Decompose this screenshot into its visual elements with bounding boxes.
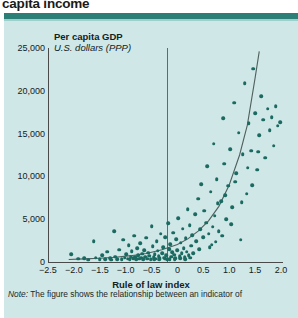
- scatter-point: [235, 171, 239, 175]
- scatter-point: [203, 209, 207, 213]
- scatter-point: [196, 197, 200, 201]
- scatter-point: [151, 244, 155, 248]
- fit-curve: [48, 48, 281, 262]
- scatter-point: [256, 150, 260, 154]
- scatter-point: [175, 238, 179, 242]
- scatter-point: [92, 239, 96, 243]
- x-tick-label: 2.0: [275, 265, 288, 275]
- scatter-point: [249, 149, 253, 153]
- scatter-point: [193, 212, 197, 216]
- scatter-point: [172, 231, 176, 235]
- y-tick-label: 15,000: [17, 129, 45, 139]
- scatter-point: [116, 257, 120, 261]
- scatter-point: [130, 250, 134, 254]
- scatter-point: [221, 116, 225, 120]
- scatter-point: [127, 244, 131, 248]
- chart-page: capita income Per capita GDP U.S. dollar…: [0, 0, 298, 318]
- y-axis-ticks: 05,00010,00015,00020,00025,000: [4, 48, 45, 262]
- scatter-point: [209, 190, 213, 194]
- x-tick-label: −1.0: [117, 265, 135, 275]
- scatter-point: [161, 246, 165, 250]
- x-axis-line: [48, 262, 283, 263]
- scatter-point: [152, 258, 156, 262]
- note-text: The figure shows the relationship betwee…: [28, 289, 242, 299]
- scatter-point: [70, 252, 74, 256]
- scatter-point: [186, 207, 190, 211]
- scatter-point: [234, 180, 238, 184]
- scatter-point: [190, 234, 194, 238]
- scatter-point: [166, 222, 170, 226]
- scatter-point: [76, 257, 80, 261]
- scatter-point: [82, 257, 86, 261]
- scatter-point: [240, 200, 244, 204]
- scatter-point: [178, 257, 182, 261]
- scatter-point: [216, 201, 220, 205]
- scatter-point: [183, 258, 187, 262]
- page-headline: capita income: [2, 0, 296, 12]
- note-prefix: Note:: [8, 289, 28, 299]
- scatter-point: [228, 147, 232, 151]
- scatter-point: [214, 240, 218, 244]
- scatter-point: [168, 258, 172, 262]
- scatter-point: [160, 251, 164, 255]
- scatter-point: [233, 101, 237, 105]
- scatter-point: [222, 162, 226, 166]
- scatter-point: [181, 227, 185, 231]
- scatter-point: [272, 144, 276, 148]
- scatter-point: [215, 177, 219, 181]
- scatter-point: [153, 252, 157, 256]
- scatter-point: [118, 248, 122, 252]
- scatter-point: [135, 247, 139, 251]
- scatter-point: [257, 134, 261, 138]
- scatter-point: [94, 256, 98, 260]
- x-tick-label: −2.5: [39, 265, 57, 275]
- scatter-point: [229, 223, 233, 227]
- scatter-point: [211, 225, 215, 229]
- y-tick-label: 5,000: [22, 214, 45, 224]
- scatter-point: [179, 241, 183, 245]
- scatter-point: [266, 107, 270, 111]
- scatter-point: [224, 217, 228, 221]
- scatter-point: [253, 111, 257, 115]
- scatter-point: [105, 250, 109, 254]
- scatter-point: [212, 142, 216, 146]
- scatter-point: [208, 246, 212, 250]
- scatter-point: [159, 232, 163, 236]
- scatter-point: [220, 234, 224, 238]
- scatter-point: [197, 247, 201, 251]
- scatter-point: [245, 192, 249, 196]
- scatter-point: [112, 229, 116, 233]
- scatter-point: [250, 183, 254, 187]
- scatter-point: [268, 128, 272, 132]
- chart-panel: Per capita GDP U.S. dollars (PPP) 05,000…: [4, 13, 298, 318]
- y-tick-label: 25,000: [17, 43, 45, 53]
- x-tick-label: 0: [175, 265, 180, 275]
- scatter-point: [243, 81, 247, 85]
- scatter-point: [239, 238, 243, 242]
- y-tick-label: 10,000: [17, 171, 45, 181]
- scatter-point: [270, 116, 274, 120]
- scatter-point: [132, 234, 136, 238]
- scatter-point: [150, 225, 154, 229]
- scatter-point: [124, 253, 128, 257]
- plot-area: [48, 48, 281, 262]
- x-tick-label: 0.5: [197, 265, 210, 275]
- scatter-point: [213, 214, 217, 218]
- scatter-point: [189, 244, 193, 248]
- scatter-point: [155, 240, 159, 244]
- scatter-point: [198, 228, 202, 232]
- scatter-point: [205, 221, 209, 225]
- panel-rule-bar: [4, 13, 298, 19]
- scatter-point: [217, 229, 221, 233]
- scatter-point: [264, 156, 268, 160]
- scatter-point: [231, 205, 235, 209]
- scatter-point: [274, 104, 278, 108]
- scatter-point: [177, 217, 181, 221]
- scatter-point: [121, 238, 125, 242]
- scatter-point: [199, 182, 203, 186]
- scatter-point: [143, 248, 147, 252]
- scatter-point: [189, 256, 193, 260]
- scatter-point: [156, 249, 160, 253]
- scatter-point: [158, 257, 162, 261]
- scatter-point: [184, 236, 188, 240]
